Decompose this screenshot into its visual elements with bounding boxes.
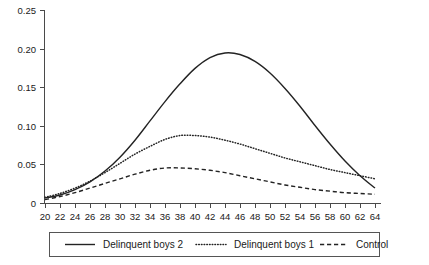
x-tick-label-15: 50 (265, 211, 276, 222)
x-tick-label-2: 24 (70, 211, 81, 222)
legend: Delinquent boys 2 Delinquent boys 1 Cont… (50, 233, 389, 257)
y-tick-label-3: 0.15 (18, 82, 37, 93)
line-chart-svg: 0.25 0.20 0.15 0.10 0.05 0 2022242628303… (0, 0, 429, 265)
y-axis-tick-labels: 0.25 0.20 0.15 0.10 0.05 0 (18, 5, 37, 209)
y-tick-label-0: 0 (31, 198, 36, 209)
y-tick-label-4: 0.20 (18, 44, 37, 55)
series-line-0 (45, 53, 375, 198)
y-tick-label-5: 0.25 (18, 5, 37, 16)
x-tick-label-20: 60 (340, 211, 351, 222)
legend-label-2: Control (356, 239, 388, 250)
x-tick-label-17: 54 (295, 211, 306, 222)
x-tick-label-4: 28 (100, 211, 111, 222)
x-axis: 2022242628303234363840424446485052545658… (40, 204, 381, 222)
x-tick-label-11: 42 (205, 211, 216, 222)
x-tick-label-8: 36 (160, 211, 171, 222)
legend-entry-2: Control (320, 239, 388, 250)
y-axis-ticks (40, 11, 45, 204)
x-tick-label-21: 62 (355, 211, 366, 222)
y-tick-label-1: 0.05 (18, 159, 37, 170)
series-line-1 (45, 135, 375, 197)
y-tick-label-2: 0.10 (18, 121, 37, 132)
x-tick-label-9: 38 (175, 211, 186, 222)
x-axis-tick-labels: 2022242628303234363840424446485052545658… (40, 211, 381, 222)
x-tick-label-16: 52 (280, 211, 291, 222)
x-tick-label-22: 64 (370, 211, 381, 222)
x-tick-label-1: 22 (55, 211, 66, 222)
x-tick-label-12: 44 (220, 211, 231, 222)
chart-series-group (45, 53, 375, 200)
x-tick-label-10: 40 (190, 211, 201, 222)
x-tick-label-7: 34 (145, 211, 156, 222)
y-axis: 0.25 0.20 0.15 0.10 0.05 0 (18, 5, 45, 209)
x-tick-label-13: 46 (235, 211, 246, 222)
x-tick-label-5: 30 (115, 211, 126, 222)
x-tick-label-3: 26 (85, 211, 96, 222)
x-tick-label-18: 56 (310, 211, 321, 222)
legend-label-0: Delinquent boys 2 (103, 239, 183, 250)
x-tick-label-19: 58 (325, 211, 336, 222)
legend-entry-0: Delinquent boys 2 (65, 239, 183, 250)
x-tick-label-14: 48 (250, 211, 261, 222)
x-tick-label-0: 20 (40, 211, 51, 222)
x-axis-ticks (46, 204, 376, 209)
x-tick-label-6: 32 (130, 211, 141, 222)
legend-label-1: Delinquent boys 1 (234, 239, 314, 250)
chart-figure: 0.25 0.20 0.15 0.10 0.05 0 2022242628303… (0, 0, 429, 265)
legend-entry-1: Delinquent boys 1 (196, 239, 314, 250)
series-line-2 (45, 168, 375, 200)
